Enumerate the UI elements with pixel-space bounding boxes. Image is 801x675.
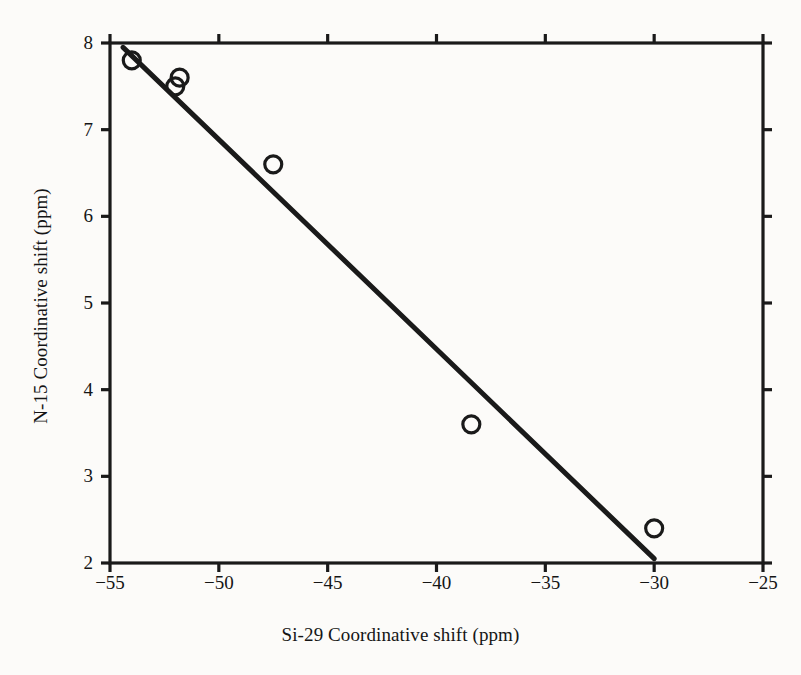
trend-line-segment [123, 47, 654, 558]
data-point-marker [463, 416, 480, 433]
trend-line [123, 47, 654, 558]
y-axis-title: N-15 Coordinative shift (ppm) [30, 46, 52, 566]
data-point-marker [265, 156, 282, 173]
y-tick-label: 5 [63, 292, 93, 314]
figure-page: −55−50−45−40−35−30−25 2345678 Si-29 Coor… [0, 0, 801, 675]
x-tick-label: −30 [639, 572, 669, 594]
plot-frame [110, 43, 763, 563]
y-tick-label: 2 [63, 552, 93, 574]
x-tick-label: −40 [422, 572, 452, 594]
x-tick-label: −50 [204, 572, 234, 594]
axis-frame [110, 43, 763, 563]
y-tick-label: 7 [63, 119, 93, 141]
y-tick-label: 3 [63, 465, 93, 487]
x-tick-label: −35 [530, 572, 560, 594]
x-axis-title: Si-29 Coordinative shift (ppm) [0, 624, 801, 646]
y-tick-label: 8 [63, 32, 93, 54]
tick-marks [101, 34, 772, 572]
y-tick-label: 4 [63, 379, 93, 401]
data-point-marker [646, 520, 663, 537]
scatter-plot-figure: −55−50−45−40−35−30−25 2345678 Si-29 Coor… [0, 0, 801, 675]
y-tick-label: 6 [63, 205, 93, 227]
x-tick-label: −25 [748, 572, 778, 594]
x-tick-label: −45 [313, 572, 343, 594]
x-tick-label: −55 [95, 572, 125, 594]
